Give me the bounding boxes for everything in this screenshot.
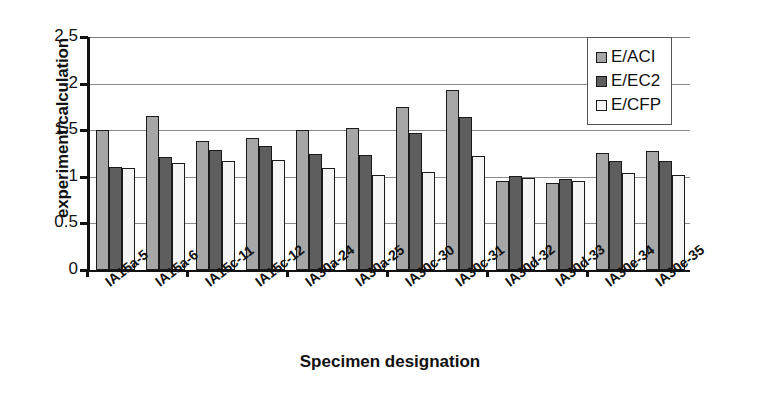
legend-item-label: E/ACI (611, 47, 655, 67)
x-axis-tick (286, 270, 289, 277)
x-axis-tick (486, 270, 489, 277)
bar (109, 167, 122, 270)
x-axis-tick (186, 270, 189, 277)
bar (609, 161, 622, 270)
legend-item: E/EC2 (596, 69, 661, 93)
legend-swatch-icon (596, 76, 607, 87)
chart-figure: experiment/calculation 00.511.522.5 IA15… (0, 0, 780, 404)
y-axis-tick (80, 129, 88, 132)
y-axis-tick (80, 176, 88, 179)
bar (359, 155, 372, 270)
y-axis-tick (80, 222, 88, 225)
bar (209, 150, 222, 270)
x-axis-tick (86, 270, 89, 277)
legend: E/ACI E/EC2 E/CFP (587, 37, 672, 125)
y-axis-tick-label: 1.5 (18, 119, 78, 139)
x-axis-title: Specimen designation (0, 352, 780, 372)
legend-item: E/CFP (596, 93, 661, 117)
bar (159, 157, 172, 270)
legend-swatch-icon (596, 100, 607, 111)
legend-item-label: E/CFP (611, 95, 661, 115)
bar (96, 130, 109, 270)
x-axis-tick (586, 270, 589, 277)
y-axis-tick-label: 0 (18, 259, 78, 279)
legend-swatch-icon (596, 52, 607, 63)
y-axis-tick-label: 2 (18, 73, 78, 93)
bar (659, 161, 672, 270)
x-axis-category-labels: IA15a-5IA15a-6IA15c-11IA15c-12IA30a-24IA… (87, 277, 687, 347)
bar (309, 154, 322, 271)
legend-item: E/ACI (596, 45, 661, 69)
bar-group (90, 37, 140, 270)
y-axis-tick-label: 0.5 (18, 212, 78, 232)
legend-item-label: E/EC2 (611, 71, 660, 91)
x-axis-tick (386, 270, 389, 277)
y-axis-tick (80, 36, 88, 39)
y-axis-tick (80, 83, 88, 86)
y-axis-tick-label: 1 (18, 166, 78, 186)
y-axis-tick-label: 2.5 (18, 26, 78, 46)
